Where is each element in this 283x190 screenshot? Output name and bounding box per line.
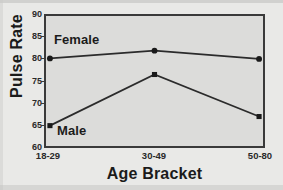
y-tick-label: 70 <box>20 99 42 108</box>
chart-figure: Pulse Rate 90 85 80 75 70 65 60 18-29 30… <box>0 0 283 190</box>
series-line-male <box>50 75 259 126</box>
series-label-female: Female <box>54 32 99 47</box>
data-point-female-18-29 <box>47 56 53 62</box>
y-tick-label: 90 <box>20 10 42 19</box>
x-tick-label: 30-49 <box>130 150 178 161</box>
x-tick-label: 18-29 <box>24 150 72 161</box>
data-point-male-18-29 <box>47 123 52 128</box>
data-point-male-30-49 <box>152 72 157 77</box>
series-label-male: Male <box>57 123 86 138</box>
y-tick-label: 85 <box>20 32 42 41</box>
data-point-female-30-49 <box>152 48 158 54</box>
y-tick-label: 80 <box>20 54 42 63</box>
scan-edge-left <box>0 0 3 190</box>
data-point-female-50-80 <box>256 56 262 62</box>
y-tick-label: 75 <box>20 77 42 86</box>
scan-edge-bottom <box>0 185 283 190</box>
x-tick-label: 50-80 <box>236 150 283 161</box>
y-axis-tick-labels: 90 85 80 75 70 65 60 <box>18 0 42 190</box>
scan-edge-top <box>0 0 283 3</box>
y-tick-label: 65 <box>20 121 42 130</box>
x-axis-title: Age Bracket <box>44 165 265 183</box>
data-point-male-50-80 <box>257 114 262 119</box>
